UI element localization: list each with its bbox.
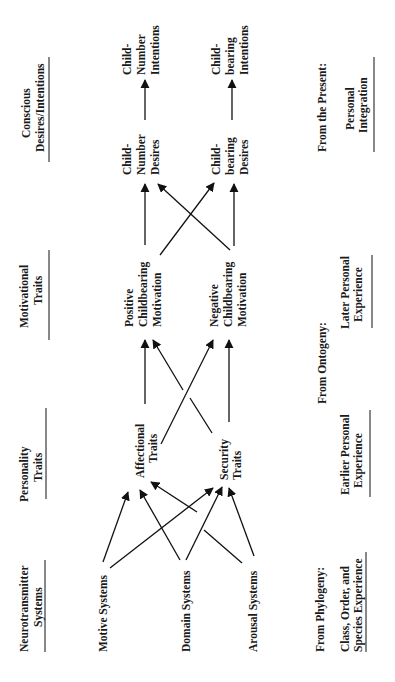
svg-text:Motivational: Motivational bbox=[18, 265, 30, 328]
source-personal-integration: Personal Integration bbox=[344, 57, 374, 152]
node-motive-systems: Motive Systems bbox=[97, 575, 110, 652]
node-child-number-intentions: Child- Number Intentions bbox=[121, 25, 161, 75]
header-neurotransmitter-systems: Neurotransmitter Systems bbox=[18, 560, 45, 652]
svg-text:Traits: Traits bbox=[32, 275, 44, 305]
svg-text:Traits: Traits bbox=[231, 450, 243, 480]
svg-text:Number: Number bbox=[135, 134, 147, 175]
source-earlier-personal-experience: Earlier Personal Experience bbox=[339, 410, 370, 497]
node-affectional-traits: Affectional Traits bbox=[134, 424, 159, 478]
svg-text:Motivation: Motivation bbox=[151, 272, 163, 327]
svg-text:bearing: bearing bbox=[224, 37, 237, 75]
svg-text:Childbearing: Childbearing bbox=[137, 262, 150, 327]
svg-text:Personality: Personality bbox=[18, 446, 31, 502]
edges-motivational-to-desires bbox=[145, 183, 234, 255]
svg-text:Traits: Traits bbox=[32, 452, 44, 482]
svg-text:Positive: Positive bbox=[123, 289, 135, 327]
svg-text:Negative: Negative bbox=[208, 284, 221, 327]
label-from-phylogeny: From Phylogeny: bbox=[314, 567, 327, 652]
source-later-personal-experience: Later Personal Experience bbox=[339, 255, 372, 329]
node-child-bearing-desires: Child- bearing Desires bbox=[210, 137, 250, 175]
svg-text:Neurotransmitter: Neurotransmitter bbox=[18, 565, 30, 652]
node-domain-systems: Domain Systems bbox=[180, 570, 193, 652]
svg-text:Experience: Experience bbox=[352, 433, 365, 488]
header-motivational-traits: Motivational Traits bbox=[18, 250, 49, 340]
svg-text:Personal: Personal bbox=[344, 87, 356, 130]
svg-text:Desires/Intentions: Desires/Intentions bbox=[34, 63, 46, 152]
svg-text:Experience: Experience bbox=[352, 267, 365, 322]
node-arousal-systems: Arousal Systems bbox=[247, 570, 260, 652]
svg-text:Child-: Child- bbox=[121, 144, 133, 175]
svg-text:Security: Security bbox=[218, 439, 231, 480]
svg-text:Affectional: Affectional bbox=[134, 424, 146, 478]
svg-text:Child-: Child- bbox=[121, 44, 133, 75]
svg-text:Traits: Traits bbox=[147, 433, 159, 463]
edges-desires-to-intentions bbox=[145, 80, 232, 120]
svg-text:Systems: Systems bbox=[32, 587, 45, 627]
edges-neuro-to-personality bbox=[103, 482, 254, 568]
svg-text:Motivation: Motivation bbox=[236, 272, 248, 327]
svg-text:Intentions: Intentions bbox=[238, 25, 250, 75]
svg-text:Conscious: Conscious bbox=[20, 88, 32, 138]
edges-personality-to-motivational bbox=[145, 340, 229, 444]
svg-text:Number: Number bbox=[135, 34, 147, 75]
svg-text:Species Experience: Species Experience bbox=[352, 558, 365, 652]
node-child-bearing-intentions: Child- bearing Intentions bbox=[210, 25, 250, 75]
node-security-traits: Security Traits bbox=[218, 439, 243, 480]
svg-text:Intentions: Intentions bbox=[149, 25, 161, 75]
svg-text:Earlier Personal: Earlier Personal bbox=[339, 414, 351, 495]
node-child-number-desires: Child- Number Desires bbox=[121, 134, 161, 175]
source-phylogeny-experience: Class, Order, and Species Experience bbox=[339, 552, 366, 652]
svg-text:Child-: Child- bbox=[210, 144, 222, 175]
label-from-ontogeny: From Ontogeny: bbox=[316, 322, 329, 404]
header-conscious-desires-intentions: Conscious Desires/Intentions bbox=[20, 57, 49, 162]
diagram-canvas: Neurotransmitter Systems Personality Tra… bbox=[0, 0, 395, 682]
svg-text:Desires: Desires bbox=[238, 139, 250, 175]
node-positive-childbearing-motivation: Positive Childbearing Motivation bbox=[123, 262, 163, 327]
svg-text:Later Personal: Later Personal bbox=[339, 256, 351, 329]
svg-text:Integration: Integration bbox=[357, 77, 370, 133]
svg-text:Class, Order, and: Class, Order, and bbox=[339, 566, 351, 652]
svg-text:Child-: Child- bbox=[210, 44, 222, 75]
svg-text:Childbearing: Childbearing bbox=[222, 262, 235, 327]
svg-text:bearing: bearing bbox=[224, 137, 237, 175]
node-negative-childbearing-motivation: Negative Childbearing Motivation bbox=[208, 262, 248, 327]
header-personality-traits: Personality Traits bbox=[18, 408, 46, 502]
label-from-the-present: From the Present: bbox=[316, 63, 328, 152]
svg-text:Desires: Desires bbox=[149, 139, 161, 175]
